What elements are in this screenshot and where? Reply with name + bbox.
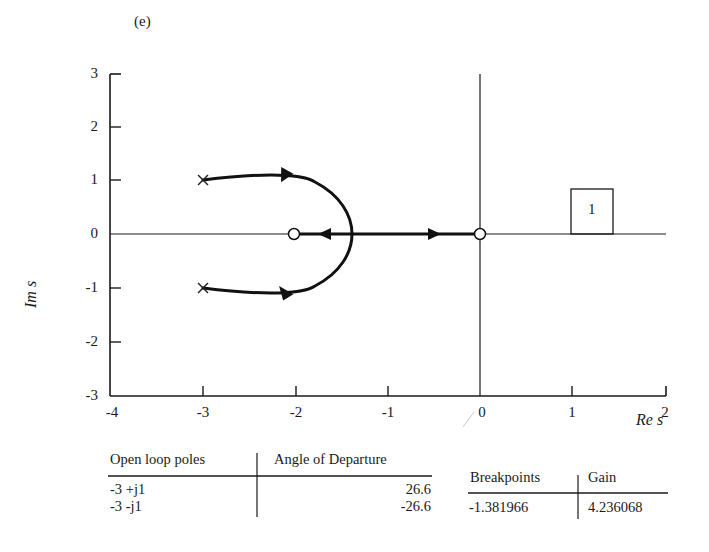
annotation-box-label: 1: [588, 201, 596, 218]
arrow-right-icon: [428, 228, 441, 240]
x-tick-label: -2: [276, 404, 316, 421]
table-cell: 4.236068: [588, 499, 642, 516]
arrow-left-icon: [318, 228, 331, 240]
table-cell: -3 +j1: [110, 481, 145, 498]
y-axis-label: Im s: [22, 281, 40, 308]
table-header: Open loop poles: [110, 451, 205, 468]
zero-circle-icon: [475, 229, 486, 240]
upper-branch: [203, 175, 352, 234]
table-header: Breakpoints: [470, 469, 540, 486]
y-tick-label: 0: [78, 225, 98, 242]
y-tick-label: 3: [78, 65, 98, 82]
table-cell: 26.6: [406, 481, 431, 498]
table-cell: -26.6: [401, 498, 431, 515]
x-tick-label: 1: [552, 404, 592, 421]
y-tick-label: -1: [78, 279, 98, 296]
table-cell: -1.381966: [469, 499, 528, 516]
table-header: Gain: [588, 469, 616, 486]
y-tick-label: 1: [78, 171, 98, 188]
zero-circle-icon: [289, 229, 300, 240]
table-cell: -3 -j1: [110, 498, 142, 515]
y-tick-label: -3: [78, 387, 98, 404]
y-tick-label: 2: [78, 118, 98, 135]
x-axis-label: Re s: [636, 411, 663, 429]
lower-branch: [203, 234, 352, 293]
x-tick-label: 0: [462, 404, 502, 421]
x-tick-label: -4: [92, 404, 132, 421]
x-tick-label: -1: [368, 404, 408, 421]
y-tick-label: -2: [78, 333, 98, 350]
x-ticks: [203, 386, 572, 396]
table-header: Angle of Departure: [274, 451, 387, 468]
x-tick-label: -3: [183, 404, 223, 421]
